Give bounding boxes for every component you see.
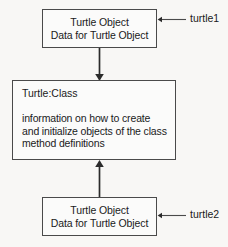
- top-object-box-line2: Data for Turtle Object: [51, 29, 149, 42]
- bottom-object-box-line1: Turtle Object: [70, 204, 128, 217]
- class-box-title: Turtle:Class: [22, 87, 175, 100]
- turtle-class-box: Turtle:Class information on how to creat…: [12, 80, 176, 160]
- diagram-canvas: Turtle Object Data for Turtle Object Tur…: [0, 0, 228, 247]
- class-box-body-line-1: information on how to create: [22, 112, 175, 125]
- class-box-body-line-3: method definitions: [22, 137, 175, 150]
- bottom-object-box: Turtle Object Data for Turtle Object: [42, 197, 157, 236]
- top-object-box-line1: Turtle Object: [70, 16, 128, 29]
- label-turtle2: turtle2: [190, 208, 219, 221]
- class-box-body: information on how to create and initial…: [22, 112, 175, 150]
- bottom-object-box-line2: Data for Turtle Object: [51, 217, 149, 230]
- label-turtle1: turtle1: [190, 12, 219, 25]
- top-object-box: Turtle Object Data for Turtle Object: [42, 9, 157, 48]
- class-box-body-line-2: and initialize objects of the class: [22, 125, 175, 138]
